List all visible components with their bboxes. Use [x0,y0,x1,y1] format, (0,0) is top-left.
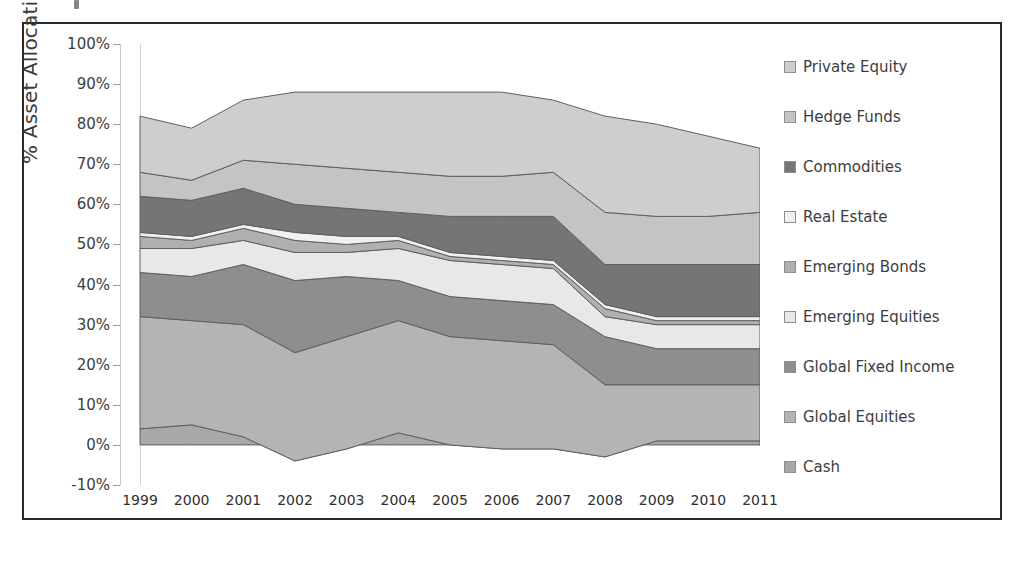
x-tick-label: 2000 [174,492,210,508]
y-tick-mark [113,325,120,326]
y-tick-mark [113,485,120,486]
y-tick-mark [113,84,120,85]
legend-item-emerging-bonds[interactable]: Emerging Bonds [784,258,926,276]
legend-label: Private Equity [803,58,908,76]
legend-swatch-icon [784,111,796,123]
legend-label: Commodities [803,158,902,176]
legend-item-private-equity[interactable]: Private Equity [784,58,908,76]
y-tick-label: 100% [40,35,110,53]
plot-area [120,44,760,485]
x-tick-label: 2004 [381,492,417,508]
legend-item-emerging-equities[interactable]: Emerging Equities [784,308,939,326]
x-tick-label: 2002 [277,492,313,508]
legend-swatch-icon [784,61,796,73]
legend-label: Emerging Bonds [803,258,926,276]
y-tick-mark [113,285,120,286]
x-tick-label: 2001 [226,492,262,508]
y-tick-label: 90% [40,75,110,93]
y-tick-mark [113,244,120,245]
x-tick-label: 1999 [122,492,158,508]
y-tick-label: 70% [40,155,110,173]
y-tick-mark [113,445,120,446]
plot-wrapper: 100%90%80%70%60%50%40%30%20%10%0%-10% 19… [120,44,760,485]
legend-item-hedge-funds[interactable]: Hedge Funds [784,108,901,126]
y-tick-mark [113,44,120,45]
legend-item-cash[interactable]: Cash [784,458,840,476]
y-tick-mark [113,365,120,366]
y-tick-label: 60% [40,195,110,213]
y-tick-label: 10% [40,396,110,414]
y-tick-mark [113,124,120,125]
x-tick-label: 2010 [691,492,727,508]
legend-item-global-equities[interactable]: Global Equities [784,408,915,426]
legend-label: Real Estate [803,208,888,226]
scan-artifact [74,0,79,9]
x-tick-label: 2003 [329,492,365,508]
y-tick-mark [113,405,120,406]
legend-label: Hedge Funds [803,108,901,126]
legend-swatch-icon [784,261,796,273]
x-tick-label: 2008 [587,492,623,508]
legend-swatch-icon [784,161,796,173]
x-tick-label: 2005 [432,492,468,508]
chart-screenshot: % Asset Allocation 100%90%80%70%60%50%40… [0,0,1026,567]
x-tick-label: 2011 [742,492,778,508]
legend-item-global-fixed-income[interactable]: Global Fixed Income [784,358,954,376]
chart-frame: % Asset Allocation 100%90%80%70%60%50%40… [22,22,1002,520]
y-tick-label: 50% [40,235,110,253]
legend-swatch-icon [784,211,796,223]
legend-label: Emerging Equities [803,308,939,326]
y-tick-label: 20% [40,356,110,374]
legend-swatch-icon [784,311,796,323]
legend-label: Global Equities [803,408,915,426]
legend-swatch-icon [784,411,796,423]
y-tick-label: 40% [40,276,110,294]
legend-item-real-estate[interactable]: Real Estate [784,208,888,226]
legend-item-commodities[interactable]: Commodities [784,158,902,176]
y-tick-label: 0% [40,436,110,454]
x-tick-label: 2006 [484,492,520,508]
legend-label: Cash [803,458,840,476]
legend-swatch-icon [784,361,796,373]
x-tick-label: 2007 [536,492,572,508]
y-tick-mark [113,164,120,165]
stacked-area-svg [120,44,760,485]
y-tick-label: 30% [40,316,110,334]
y-tick-label: 80% [40,115,110,133]
y-tick-label: -10% [40,476,110,494]
legend-swatch-icon [784,461,796,473]
y-tick-mark [113,204,120,205]
x-tick-label: 2009 [639,492,675,508]
y-axis-title: % Asset Allocation [18,0,42,164]
legend-label: Global Fixed Income [803,358,954,376]
